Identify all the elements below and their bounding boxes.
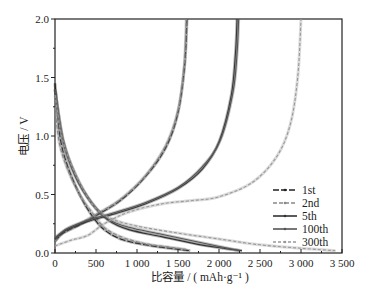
- legend-marker-2nd: [284, 202, 287, 205]
- x-axis-ticks: 05001 0001 5002 0002 5003 0003 500: [52, 249, 355, 269]
- legend-marker-5th: [284, 215, 287, 218]
- x-tick-label: 3 500: [330, 257, 355, 269]
- series-100th-charge: [55, 19, 239, 238]
- legend-label-100th: 100th: [302, 223, 328, 235]
- legend-marker-1st: [284, 189, 287, 192]
- y-tick-label: 0.0: [35, 247, 49, 259]
- x-tick-label: 500: [88, 257, 105, 269]
- y-tick-label: 1.0: [35, 130, 49, 142]
- series-2nd-charge-halo: [55, 19, 186, 241]
- series-2nd-charge: [55, 19, 186, 241]
- y-tick-label: 0.5: [35, 189, 49, 201]
- legend-label-2nd: 2nd: [302, 197, 320, 209]
- y-tick-label: 1.5: [35, 72, 49, 84]
- legend-label-1st: 1st: [302, 184, 316, 196]
- legend-label-5th: 5th: [302, 210, 317, 222]
- legend-label-300th: 300th: [302, 236, 328, 248]
- y-axis-title: 电压 / V: [18, 116, 30, 156]
- charge-discharge-chart: 05001 0001 5002 0002 5003 0003 500 0.00.…: [0, 0, 370, 298]
- series-100th-discharge-halo: [55, 89, 240, 251]
- series-100th-discharge: [55, 89, 240, 251]
- series-1st-charge: [55, 19, 187, 241]
- x-tick-label: 3 000: [289, 257, 314, 269]
- x-tick-label: 0: [52, 257, 58, 269]
- series-1st-charge-halo: [55, 19, 187, 241]
- x-axis-title: 比容量 / ( mAh·g⁻¹ ): [151, 270, 249, 284]
- legend-marker-100th: [284, 228, 287, 231]
- y-axis-ticks: 0.00.51.01.52.0: [35, 13, 55, 259]
- legend: 1st2nd5th100th300th: [273, 184, 328, 248]
- x-tick-label: 2 500: [248, 257, 273, 269]
- y-tick-label: 2.0: [35, 13, 49, 25]
- series-100th-charge-halo: [55, 19, 239, 238]
- x-tick-label: 1 500: [166, 257, 191, 269]
- x-tick-label: 1 000: [125, 257, 150, 269]
- legend-marker-300th: [284, 241, 287, 244]
- x-tick-label: 2 000: [207, 257, 232, 269]
